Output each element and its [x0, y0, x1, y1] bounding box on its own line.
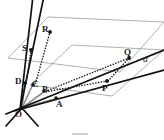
point-marker-D: [23, 81, 26, 84]
label-point-R: R: [42, 25, 49, 34]
label-point-O: O: [15, 110, 22, 119]
line-O-Q-extended: [6, 50, 164, 114]
upper-plane: [8, 17, 164, 72]
geometry-canvas: [0, 0, 164, 140]
dotted-P-B: [45, 81, 107, 92]
label-point-P: P: [102, 84, 108, 93]
point-marker-S: [29, 48, 33, 52]
caption-mark: [72, 133, 88, 135]
label-plane-alpha: α: [143, 55, 148, 65]
dotted-Q-B: [46, 58, 129, 91]
line-O-P-extended: [14, 70, 164, 111]
line-O-down-right: [22, 108, 38, 126]
label-point-B: B: [42, 85, 48, 94]
label-point-Q: Q: [124, 48, 131, 57]
label-point-D: D: [15, 77, 22, 86]
label-point-S: S: [22, 44, 27, 53]
geometry-figure: O A B C D P Q R S α: [0, 0, 164, 140]
label-point-C: C: [32, 80, 39, 89]
dotted-R-C: [35, 32, 50, 85]
label-point-A: A: [56, 100, 63, 109]
